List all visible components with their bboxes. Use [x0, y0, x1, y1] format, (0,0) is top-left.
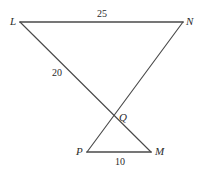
measure-label-LN: 25 [97, 9, 107, 19]
segment-LM [20, 22, 151, 152]
vertex-label-P: P [76, 146, 83, 157]
vertex-label-Q: Q [119, 112, 127, 123]
measure-label-PM: 10 [115, 157, 125, 167]
vertex-label-L: L [10, 16, 16, 27]
measure-label-LQ: 20 [52, 68, 62, 78]
geometry-figure: L N Q P M 25 20 10 [0, 0, 205, 173]
geometry-canvas [0, 0, 205, 173]
segment-NP [87, 22, 183, 152]
vertex-label-M: M [155, 146, 164, 157]
vertex-label-N: N [186, 16, 193, 27]
